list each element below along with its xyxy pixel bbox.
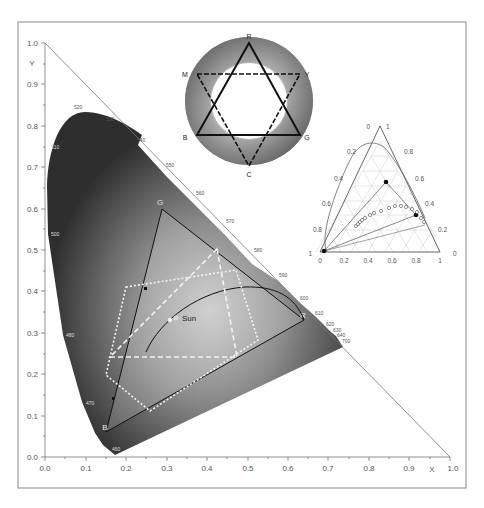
sun-label: Sun (182, 314, 196, 323)
wheel-label-b: B (183, 134, 188, 141)
wl-610: 610 (315, 310, 324, 316)
x-tick-6: 0.6 (282, 464, 294, 473)
wl-470: 470 (86, 400, 95, 406)
wl-550: 550 (166, 162, 175, 168)
wl-500: 500 (51, 231, 60, 237)
white-point-marker (168, 318, 172, 322)
y-tick-2: 0.2 (27, 370, 39, 379)
wl-540: 540 (137, 137, 146, 143)
wheel-label-g: G (304, 134, 309, 141)
wheel-label-r: R (246, 33, 251, 40)
tern-bottom-5: 1 (438, 257, 442, 264)
x-tick-5: 0.5 (242, 464, 254, 473)
x-tick-3: 0.3 (161, 464, 173, 473)
y-tick-1: 0.1 (27, 412, 39, 421)
wl-570: 570 (226, 218, 235, 224)
wheel-label-y: Y (305, 71, 310, 78)
gamut-marker-lower (112, 397, 114, 400)
gamut-label-g: G (157, 198, 163, 207)
wl-560: 560 (196, 190, 205, 196)
wheel-label-c: C (246, 171, 251, 178)
wl-480: 480 (66, 332, 75, 338)
y-tick-0: 0.0 (27, 453, 39, 462)
wl-530: 530 (106, 116, 115, 122)
y-tick-10: 1.0 (27, 39, 39, 48)
x-tick-10: 1.0 (447, 464, 459, 473)
wl-520: 520 (74, 104, 83, 110)
tern-right-4: 0.8 (404, 148, 413, 155)
y-axis-label: Y (29, 59, 35, 68)
tern-bottom-1: 0.2 (339, 257, 348, 264)
wl-510: 510 (51, 144, 60, 150)
wl-590: 590 (279, 272, 288, 278)
tern-right-5: 1 (386, 123, 390, 130)
x-tick-1: 0.1 (80, 464, 92, 473)
y-tick-9: 0.9 (27, 80, 39, 89)
wheel-label-m: M (182, 71, 188, 78)
wl-700: 700 (342, 338, 351, 344)
tern-left-0: 1 (308, 250, 312, 257)
wl-600: 600 (300, 295, 309, 301)
y-tick-3: 0.3 (27, 329, 39, 338)
gamut-label-b: B (102, 423, 107, 432)
tern-left-1: 0.8 (313, 226, 322, 233)
tern-bottom-2: 0.4 (363, 257, 372, 264)
x-tick-7: 0.7 (322, 464, 334, 473)
y-tick-8: 0.8 (27, 122, 39, 131)
tern-left-4: 0.2 (347, 148, 356, 155)
x-tick-8: 0.8 (363, 464, 375, 473)
tern-bottom-3: 0.6 (387, 257, 396, 264)
wl-580: 580 (254, 247, 263, 253)
x-axis-label: X (429, 465, 435, 474)
tern-right-0: 0 (453, 250, 457, 257)
wl-460: 460 (112, 446, 121, 452)
y-tick-4: 0.4 (27, 287, 39, 296)
tern-right-1: 0.2 (438, 226, 447, 233)
y-tick-5: 0.5 (27, 246, 39, 255)
x-tick-4: 0.4 (201, 464, 213, 473)
chromaticity-figure: 0.0 0.1 0.2 0.3 0.4 0.5 0.6 0.7 0.8 0.9 … (0, 0, 484, 508)
sun-marker (174, 316, 179, 321)
tern-bottom-0: 0 (318, 257, 322, 264)
tern-left-5: 0 (366, 123, 370, 130)
gamut-marker (144, 287, 147, 290)
x-tick-2: 0.2 (120, 464, 132, 473)
tern-right-2: 0.4 (425, 200, 434, 207)
tern-right-3: 0.6 (415, 175, 424, 182)
ternary-point-b (322, 249, 327, 254)
chart-canvas: 0.0 0.1 0.2 0.3 0.4 0.5 0.6 0.7 0.8 0.9 … (0, 0, 484, 508)
y-tick-6: 0.6 (27, 205, 39, 214)
x-tick-0: 0.0 (39, 464, 51, 473)
y-tick-7: 0.7 (27, 163, 39, 172)
tern-left-3: 0.4 (334, 175, 343, 182)
tern-left-2: 0.6 (322, 200, 331, 207)
x-tick-9: 0.9 (403, 464, 415, 473)
tern-bottom-4: 0.8 (411, 257, 420, 264)
ternary-point-g (384, 180, 389, 185)
